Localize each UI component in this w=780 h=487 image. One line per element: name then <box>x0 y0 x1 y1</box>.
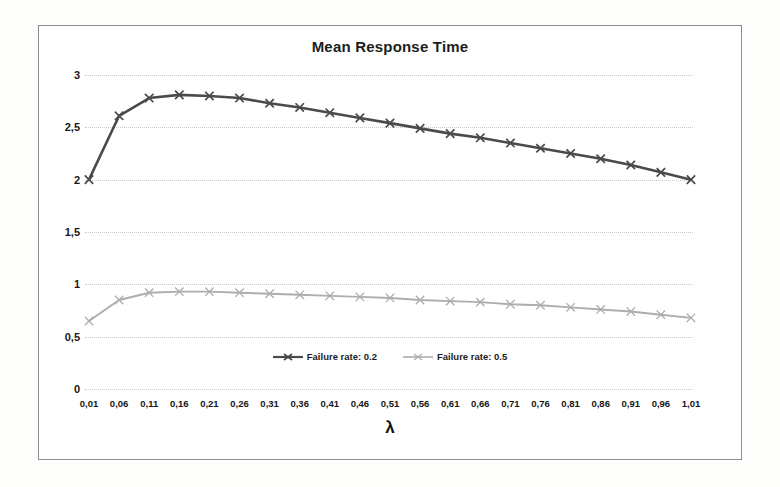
x-axis-tick-label: 0,11 <box>140 398 158 409</box>
x-axis-tick-label: 0,56 <box>411 398 430 409</box>
series-line <box>89 95 691 180</box>
y-axis-tick-label: 3 <box>74 69 80 81</box>
x-axis-tick-label: 0,61 <box>441 398 460 409</box>
series-2 <box>85 287 695 325</box>
chart-legend: Failure rate: 0.2Failure rate: 0.5 <box>39 351 741 362</box>
y-axis-tick-label: 1,5 <box>65 226 80 238</box>
x-axis-tick-label: 0,96 <box>652 398 671 409</box>
legend-line-marker-icon <box>403 353 433 361</box>
x-axis-tick-labels: 0,010,060,110,160,210,260,310,360,410,46… <box>89 398 691 416</box>
x-axis-tick-label: 1,01 <box>682 398 701 409</box>
x-axis-title: λ <box>39 418 741 438</box>
series-line <box>89 292 691 321</box>
y-axis-tick-label: 0,5 <box>65 331 80 343</box>
chart-title: Mean Response Time <box>39 38 741 55</box>
legend-item[interactable]: Failure rate: 0.2 <box>273 351 377 362</box>
x-axis-tick-label: 0,31 <box>260 398 279 409</box>
x-axis-tick-label: 0,46 <box>351 398 370 409</box>
legend-label: Failure rate: 0.2 <box>307 351 377 362</box>
series-1 <box>85 91 695 184</box>
chart-frame: Mean Response Time 00,511,522,53 Failure… <box>38 25 742 460</box>
figure-page: Mean Response Time 00,511,522,53 Failure… <box>0 0 780 487</box>
x-axis-tick-label: 0,66 <box>471 398 490 409</box>
legend-label: Failure rate: 0.5 <box>437 351 507 362</box>
y-axis-tick-label: 0 <box>74 383 80 395</box>
y-axis-tick-label: 1 <box>74 278 80 290</box>
x-axis-tick-label: 0,76 <box>531 398 550 409</box>
x-axis-tick-label: 0,36 <box>290 398 309 409</box>
x-axis-tick-label: 0,41 <box>321 398 340 409</box>
y-axis-tick-label: 2 <box>74 174 80 186</box>
x-axis-tick-label: 0,91 <box>622 398 641 409</box>
data-point-marker <box>85 317 93 325</box>
plot-area: 00,511,522,53 <box>89 75 691 389</box>
x-axis-tick-label: 0,51 <box>381 398 400 409</box>
x-axis-tick-label: 0,26 <box>230 398 249 409</box>
series-canvas <box>89 75 691 389</box>
gridline <box>85 389 693 390</box>
x-axis-tick-label: 0,71 <box>501 398 520 409</box>
x-axis-tick-label: 0,16 <box>170 398 189 409</box>
x-axis-tick-label: 0,21 <box>200 398 219 409</box>
legend-line-marker-icon <box>273 353 303 361</box>
x-axis-tick-label: 0,01 <box>80 398 99 409</box>
x-axis-tick-label: 0,81 <box>561 398 580 409</box>
x-axis-tick-label: 0,06 <box>110 398 129 409</box>
y-axis-tick-label: 2,5 <box>65 121 80 133</box>
x-axis-tick-label: 0,86 <box>591 398 610 409</box>
legend-item[interactable]: Failure rate: 0.5 <box>403 351 507 362</box>
